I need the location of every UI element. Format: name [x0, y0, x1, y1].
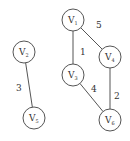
graph-diagram: 51342 V1V2V3V4V5V6 — [0, 0, 130, 141]
node-v2: V2 — [13, 41, 35, 63]
edge-weight-label: 4 — [91, 84, 97, 94]
node-v3: V3 — [62, 64, 84, 86]
edge-weight-label: 5 — [96, 20, 102, 30]
node-v1: V1 — [62, 9, 84, 31]
node-v4: V4 — [99, 46, 121, 68]
nodes-group: V1V2V3V4V5V6 — [13, 9, 121, 131]
node-v5: V5 — [23, 107, 45, 129]
edge-weight-label: 1 — [80, 47, 86, 57]
node-v6: V6 — [99, 109, 121, 131]
edge-weight-label: 2 — [114, 91, 120, 101]
edge-v2-v5 — [26, 63, 33, 107]
edge-v1-v4 — [81, 28, 102, 49]
edge-weight-label: 3 — [16, 83, 22, 93]
